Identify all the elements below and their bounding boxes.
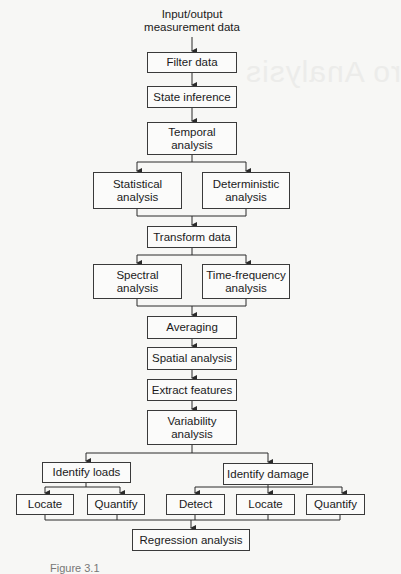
node-label: Time-frequency analysis — [206, 269, 285, 295]
node-deterministic-analysis: Deterministic analysis — [202, 172, 290, 209]
node-loads-quantify: Quantify — [87, 494, 145, 515]
node-regression-analysis: Regression analysis — [132, 529, 250, 551]
node-label: Deterministic analysis — [213, 178, 279, 204]
node-damage-detect: Detect — [166, 494, 225, 515]
node-averaging: Averaging — [147, 316, 237, 339]
node-label: Averaging — [166, 321, 218, 334]
node-damage-quantify: Quantify — [306, 494, 365, 515]
node-transform-data: Transform data — [147, 226, 237, 248]
node-label: Regression analysis — [140, 534, 243, 547]
node-label: Transform data — [153, 231, 231, 244]
figure-caption: Figure 3.1 — [50, 562, 100, 574]
node-label: Locate — [28, 498, 63, 511]
node-label: Detect — [179, 498, 212, 511]
node-loads-locate: Locate — [16, 494, 74, 515]
node-label: Statistical analysis — [113, 178, 162, 204]
node-statistical-analysis: Statistical analysis — [93, 172, 182, 209]
node-label: Filter data — [166, 56, 217, 69]
node-label: State inference — [153, 91, 230, 104]
node-label: Quantify — [95, 498, 138, 511]
node-label: Spatial analysis — [152, 352, 232, 365]
node-label: Quantify — [314, 498, 357, 511]
node-label: Extract features — [152, 384, 233, 397]
node-identify-loads: Identify loads — [42, 462, 131, 483]
node-label: Identify damage — [227, 468, 309, 481]
node-state-inference: State inference — [147, 86, 237, 108]
node-label: Variability analysis — [168, 415, 217, 441]
node-label: Spectral analysis — [116, 269, 158, 295]
node-identify-damage: Identify damage — [223, 463, 313, 485]
input-output-data-label: Input/output measurement data — [132, 8, 252, 34]
node-label: Identify loads — [53, 466, 121, 479]
node-time-frequency-analysis: Time-frequency analysis — [202, 264, 290, 299]
node-filter-data: Filter data — [147, 52, 237, 73]
node-spectral-analysis: Spectral analysis — [93, 264, 182, 299]
node-label: Temporal analysis — [168, 126, 215, 152]
node-damage-locate: Locate — [236, 494, 295, 515]
node-spatial-analysis: Spatial analysis — [147, 347, 237, 370]
node-extract-features: Extract features — [147, 379, 237, 401]
node-variability-analysis: Variability analysis — [147, 410, 237, 445]
node-temporal-analysis: Temporal analysis — [147, 122, 237, 155]
node-label: Locate — [248, 498, 283, 511]
